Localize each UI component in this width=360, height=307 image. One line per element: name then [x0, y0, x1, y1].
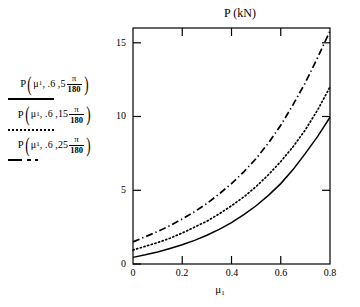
legend-function-2: P [18, 109, 24, 120]
legend-arg2-1: , .6 , [42, 79, 60, 90]
legend-sample-3 [2, 155, 108, 166]
legend-arg2-3: , .6 , [40, 140, 58, 151]
legend-fraction-num-3: π [73, 135, 80, 144]
legend-fraction-2: π180 [69, 105, 84, 125]
legend-fraction-3: π180 [69, 135, 84, 155]
legend-fraction-num-1: π [71, 74, 78, 83]
y-tick-label-5: 5 [108, 184, 126, 195]
x-axis-label-subscript: 1 [221, 289, 225, 297]
legend-expression-1: P(μ1, .6 ,5π180) [2, 74, 108, 94]
legend-coef-3: 25 [58, 140, 68, 151]
x-tick-label-0.4: 0.4 [219, 267, 245, 278]
x-tick-label-0.2: 0.2 [169, 267, 195, 278]
legend-entry-2: P(μ1, .6 ,15π180) [2, 105, 108, 136]
legend-fraction-num-2: π [73, 105, 80, 114]
y-tick-label-15: 15 [104, 37, 126, 48]
legend-entry-3: P(μ1, .6 ,25π180) [2, 135, 108, 166]
dashdot-line-sample [8, 159, 56, 162]
legend-coef-1: 5 [60, 79, 65, 90]
legend-sample-1 [2, 94, 108, 105]
legend-fraction-den-1: 180 [67, 85, 82, 94]
dashdot-dot-1 [27, 159, 31, 161]
legend-entry-1: P(μ1, .6 ,5π180) [2, 74, 108, 105]
dashdot-dot-2 [35, 159, 38, 161]
legend-arg2-2: , .6 , [40, 109, 58, 120]
legend-expression-2: P(μ1, .6 ,15π180) [2, 105, 108, 125]
x-tick-label-0.6: 0.6 [268, 267, 294, 278]
x-axis-label: μ1 [190, 283, 250, 297]
legend-fraction-den-3: 180 [69, 146, 84, 155]
solid-line-sample [8, 98, 54, 100]
x-tick-label-0.8: 0.8 [317, 267, 343, 278]
legend-function-3: P [18, 139, 24, 150]
legend-fraction-den-2: 180 [69, 116, 84, 125]
dashdot-dash [8, 159, 22, 161]
legend-fraction-1: π180 [67, 74, 82, 94]
legend-function-1: P [20, 78, 26, 89]
x-tick-label-0: 0 [120, 267, 146, 278]
legend-coef-2: 15 [58, 109, 68, 120]
legend-expression-3: P(μ1, .6 ,25π180) [2, 135, 108, 155]
legend-sample-2 [2, 124, 108, 135]
dotted-line-sample [8, 129, 54, 131]
chart-title: P (kN) [175, 6, 305, 21]
chart-legend: P(μ1, .6 ,5π180) P(μ1, .6 ,15π180) P(μ1,… [2, 74, 108, 166]
